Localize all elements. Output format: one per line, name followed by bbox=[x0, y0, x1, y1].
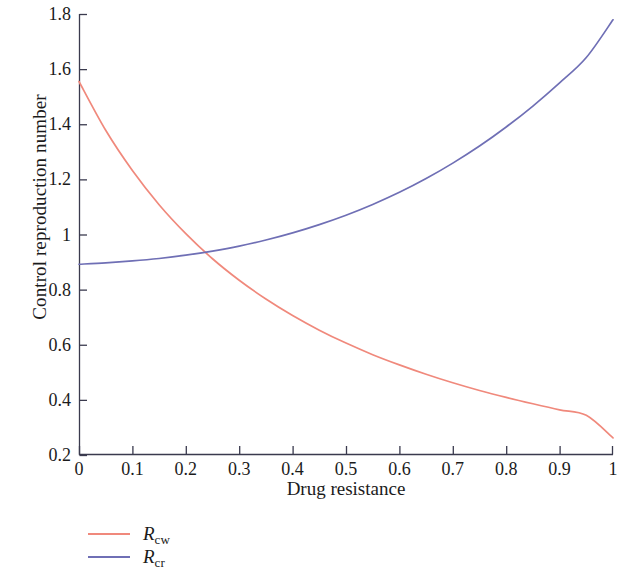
x-tick-label: 0.5 bbox=[316, 459, 376, 479]
series-line-r-cr bbox=[79, 20, 613, 264]
plot-area bbox=[79, 14, 613, 455]
chart-legend: RcwRcr bbox=[88, 522, 288, 568]
x-axis-title: Drug resistance bbox=[79, 478, 613, 500]
legend-line-swatch bbox=[88, 556, 130, 558]
legend-item-label: Rcr bbox=[143, 546, 165, 568]
x-tick-label: 0.7 bbox=[423, 459, 483, 479]
x-tick-label: 0.6 bbox=[369, 459, 429, 479]
data-series-group bbox=[79, 20, 613, 438]
legend-line-swatch bbox=[88, 533, 130, 535]
plot-canvas bbox=[79, 14, 613, 455]
axis-frame bbox=[80, 14, 614, 455]
series-line-r-cw bbox=[79, 82, 613, 438]
x-tick-label: 0.8 bbox=[476, 459, 536, 479]
y-tick-label: 1.2 bbox=[11, 170, 71, 188]
y-tick-label: 1.4 bbox=[11, 115, 71, 133]
x-tick-label: 0.9 bbox=[530, 459, 590, 479]
x-tick-label: 0.3 bbox=[209, 459, 269, 479]
y-tick-label: 1.8 bbox=[11, 5, 71, 23]
x-tick-label: 0.4 bbox=[263, 459, 323, 479]
x-tick-label: 0 bbox=[49, 459, 109, 479]
chart-figure: Control reproduction number 1.81.61.41.2… bbox=[0, 0, 628, 576]
y-axis-tick-labels: 1.81.61.41.210.80.60.40.2 bbox=[9, 14, 71, 455]
legend-item: Rcw bbox=[88, 522, 288, 545]
legend-item: Rcr bbox=[88, 545, 288, 568]
legend-item-label: Rcw bbox=[143, 523, 170, 545]
y-tick-label: 1.6 bbox=[11, 60, 71, 78]
x-tick-label: 0.1 bbox=[102, 459, 162, 479]
y-tick-label: 0.4 bbox=[11, 391, 71, 409]
axis-tick-marks bbox=[80, 15, 613, 456]
y-tick-label: 0.6 bbox=[11, 336, 71, 354]
x-tick-label: 0.2 bbox=[156, 459, 216, 479]
y-tick-label: 1 bbox=[11, 226, 71, 244]
x-tick-label: 1 bbox=[583, 459, 628, 479]
y-tick-label: 0.8 bbox=[11, 281, 71, 299]
